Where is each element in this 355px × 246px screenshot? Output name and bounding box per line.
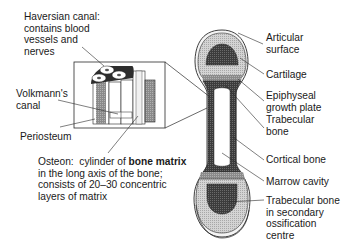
label-line: layers of matrix [38, 191, 186, 203]
label-line: Marrow cavity [266, 176, 329, 188]
osteon-bold-term: bone matrix [129, 156, 187, 167]
label-line: consists of 20–30 concentric [38, 179, 186, 191]
bottom-trabecular-secondary [207, 184, 237, 214]
label-line: Trabecular bone [266, 195, 340, 207]
osteon-inset [74, 62, 210, 128]
label-periosteum: Periosteum [20, 131, 72, 143]
label-line: contains blood [24, 23, 100, 35]
label-line: canal [16, 100, 68, 112]
label-haversian-canal: Haversian canal: contains blood vessels … [24, 11, 100, 57]
label-marrow-cavity: Marrow cavity [266, 176, 329, 188]
bottom-growth-plate [199, 172, 245, 179]
label-line: Epiphyseal [266, 90, 322, 102]
label-line: ossification [266, 218, 340, 230]
label-epiphyseal-growth-plate: Epiphyseal growth plate [266, 90, 322, 113]
label-trabecular-bone: Trabecular bone [266, 114, 314, 137]
label-line: in the long axis of the bone; [38, 168, 186, 180]
marrow-cavity [214, 88, 230, 167]
osteon-prefix: Osteon: cylinder of [38, 156, 129, 167]
label-line: Periosteum [20, 131, 72, 143]
label-cartilage: Cartilage [266, 69, 307, 81]
top-growth-plate [202, 75, 242, 81]
label-line: bone [266, 126, 314, 138]
label-line: in secondary [266, 207, 340, 219]
label-line: Haversian canal: [24, 11, 100, 23]
label-osteon: Osteon: cylinder of bone matrix in the l… [38, 156, 186, 202]
label-line: centre [266, 230, 340, 242]
label-line: surface [266, 44, 303, 56]
label-line: Cortical bone [266, 154, 326, 166]
long-bone [194, 30, 250, 238]
label-line: Articular [266, 32, 303, 44]
label-articular-surface: Articular surface [266, 32, 303, 55]
label-line: Volkmann's [16, 88, 68, 100]
label-line: Trabecular [266, 114, 314, 126]
label-line: vessels and [24, 34, 100, 46]
label-line: growth plate [266, 102, 322, 114]
label-volkmanns-canal: Volkmann's canal [16, 88, 68, 111]
label-cortical-bone: Cortical bone [266, 154, 326, 166]
label-trabecular-secondary: Trabecular bone in secondary ossificatio… [266, 195, 340, 241]
label-line: nerves [24, 46, 100, 58]
label-line: Osteon: cylinder of bone matrix [38, 156, 186, 168]
label-line: Cartilage [266, 69, 307, 81]
